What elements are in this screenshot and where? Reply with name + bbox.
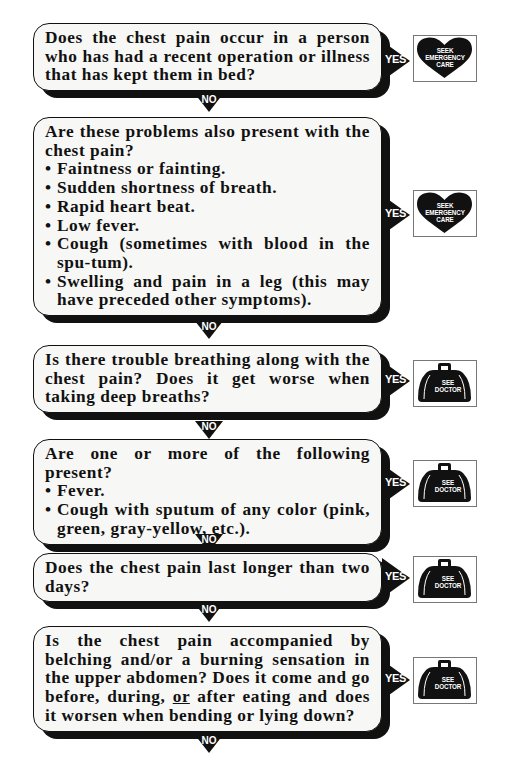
yes-label: YES <box>385 570 406 582</box>
outcome-text: SEEK EMERGENCY CARE <box>414 47 476 68</box>
symptom-item: Sudden shortness of breath. <box>45 179 370 198</box>
symptom-item: Swelling and pain in a leg (this may hav… <box>45 273 370 310</box>
symptom-item: Fever. <box>45 482 370 501</box>
no-label: NO <box>195 94 223 105</box>
question-node-3: Is there trouble breathing along with th… <box>33 345 382 413</box>
emphasis-or: or <box>173 687 190 706</box>
seek-emergency-care-icon: SEEK EMERGENCY CARE <box>413 35 477 82</box>
question-text: Are one or more of the following present… <box>45 445 370 482</box>
outcome-text: SEEK EMERGENCY CARE <box>414 202 476 223</box>
question-box: Is there trouble breathing along with th… <box>33 345 382 413</box>
symptom-item: Faintness or fainting. <box>45 160 370 179</box>
no-label: NO <box>195 321 223 332</box>
symptom-item: Cough (sometimes with blood in the spu-t… <box>45 235 370 272</box>
no-label: NO <box>195 421 223 432</box>
see-doctor-icon: SEE DOCTOR <box>413 460 477 507</box>
seek-emergency-care-icon: SEEK EMERGENCY CARE <box>413 190 477 237</box>
yes-label: YES <box>385 207 406 219</box>
question-node-6: Is the chest pain accompanied by belchin… <box>33 626 382 732</box>
question-box: Does the chest pain occur in a person wh… <box>33 23 382 91</box>
outcome-text: SEE DOCTOR <box>420 379 476 393</box>
question-text: Is the chest pain accompanied by belchin… <box>45 632 370 726</box>
no-label: NO <box>195 604 223 615</box>
symptom-item: Rapid heart beat. <box>45 198 370 217</box>
outcome-text: SEE DOCTOR <box>420 575 476 589</box>
yes-label: YES <box>385 53 406 65</box>
symptom-item: Cough with sputum of any color (pink, gr… <box>45 501 370 538</box>
question-node-2: Are these problems also present with the… <box>33 117 382 316</box>
symptom-list: Faintness or fainting. Sudden shortness … <box>45 160 370 310</box>
question-text: Is there trouble breathing along with th… <box>45 351 370 407</box>
yes-label: YES <box>385 476 406 488</box>
no-label: NO <box>195 735 223 746</box>
outcome-text: SEE DOCTOR <box>420 676 476 690</box>
question-box: Is the chest pain accompanied by belchin… <box>33 626 382 732</box>
question-node-4: Are one or more of the following present… <box>33 439 382 545</box>
yes-label: YES <box>385 672 406 684</box>
symptom-list: Fever. Cough with sputum of any color (p… <box>45 482 370 538</box>
symptom-item: Low fever. <box>45 217 370 236</box>
see-doctor-icon: SEE DOCTOR <box>413 657 477 704</box>
question-text: Are these problems also present with the… <box>45 123 370 160</box>
no-label: NO <box>195 534 223 545</box>
question-box: Are one or more of the following present… <box>33 439 382 545</box>
see-doctor-icon: SEE DOCTOR <box>413 360 477 407</box>
see-doctor-icon: SEE DOCTOR <box>413 556 477 603</box>
question-node-1: Does the chest pain occur in a person wh… <box>33 23 382 91</box>
question-box: Are these problems also present with the… <box>33 117 382 316</box>
yes-label: YES <box>385 373 406 385</box>
question-text: Does the chest pain occur in a person wh… <box>45 29 370 85</box>
outcome-text: SEE DOCTOR <box>420 479 476 493</box>
question-text: Does the chest pain last longer than two… <box>45 559 370 596</box>
question-box: Does the chest pain last longer than two… <box>33 553 382 602</box>
question-node-5: Does the chest pain last longer than two… <box>33 553 382 602</box>
